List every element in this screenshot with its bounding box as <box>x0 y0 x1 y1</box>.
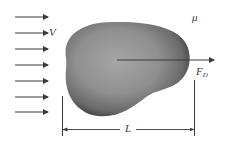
drag-force-subscript: D <box>203 71 208 79</box>
length-label: L <box>123 123 133 134</box>
body-shape <box>65 22 189 116</box>
viscosity-label: μ <box>192 12 198 23</box>
drag-force-label: FD <box>196 66 208 79</box>
flow-arrows <box>15 17 48 112</box>
drag-diagram: V μ FD L <box>0 0 229 146</box>
velocity-label: V <box>49 27 56 38</box>
drag-force-symbol: F <box>196 65 203 77</box>
